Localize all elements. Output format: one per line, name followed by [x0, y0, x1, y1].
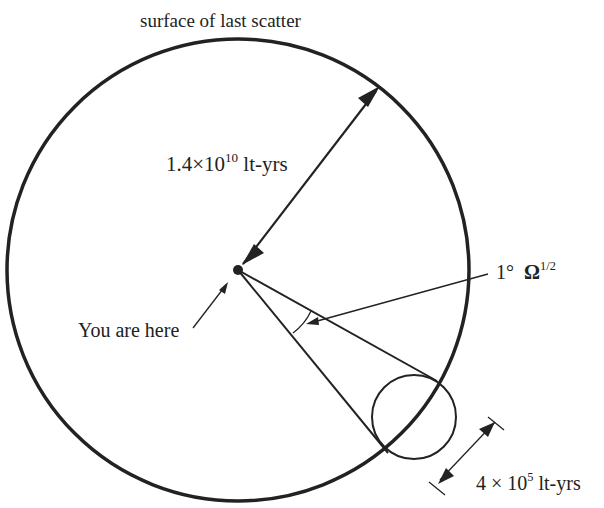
omega-symbol: Ω: [524, 261, 540, 283]
size-mantissa: 4: [476, 472, 486, 494]
radius-label: 1.4×1010 lt-yrs: [166, 154, 288, 175]
angle-label: 1°Ω1/2: [496, 262, 556, 282]
radius-times: ×: [192, 152, 204, 176]
angle-arc: [293, 311, 311, 333]
radius-base: 10: [204, 152, 225, 176]
radius-unit: lt-yrs: [243, 152, 287, 176]
cone-line-upper: [238, 270, 437, 381]
size-base: 10: [507, 472, 527, 494]
omega-exponent: 1/2: [540, 259, 556, 273]
radius-exponent: 10: [225, 150, 238, 165]
angle-pointer-arrow: [310, 274, 488, 323]
cone-line-lower: [238, 270, 388, 453]
surface-of-last-scatter-label: surface of last scatter: [140, 11, 301, 30]
you-are-here-label: You are here: [78, 320, 179, 340]
observer-pointer-arrow: [193, 285, 226, 328]
size-times: ×: [491, 472, 502, 494]
cmb-horizon-diagram: [0, 0, 604, 508]
size-unit: lt-yrs: [538, 472, 580, 494]
angle-degree: 1°: [496, 261, 514, 283]
observer-dot: [233, 265, 243, 275]
horizon-size-label: 4 × 105 lt-yrs: [476, 473, 581, 493]
radius-mantissa: 1.4: [166, 152, 192, 176]
size-exponent: 5: [527, 470, 533, 484]
